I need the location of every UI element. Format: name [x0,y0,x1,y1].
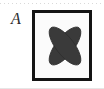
bottom-hairline-rule [0,88,104,89]
shape-group [44,22,87,69]
top-dotted-rule [0,3,104,4]
panel-label: A [11,9,29,29]
figure-panel: A [0,0,104,89]
image-frame [32,10,92,81]
crossed-ellipses-x-icon [35,13,89,78]
